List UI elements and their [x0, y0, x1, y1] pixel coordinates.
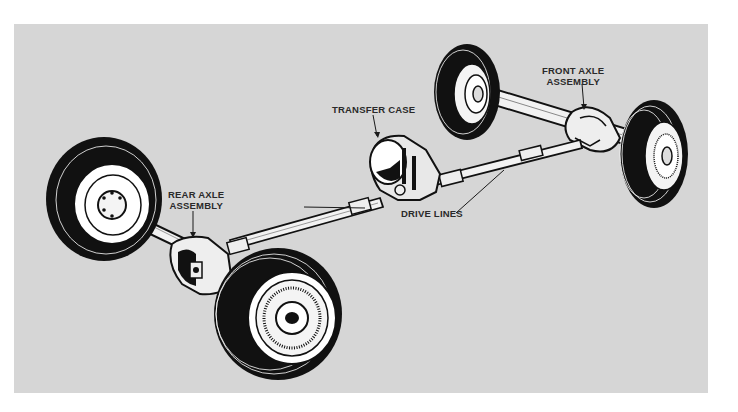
- rear-axle-label-line1: REAR AXLE: [168, 189, 224, 200]
- rear-axle-label-line2: ASSEMBLY: [168, 200, 224, 211]
- rear-axle-label: REAR AXLE ASSEMBLY: [168, 189, 224, 211]
- drive-lines-label: DRIVE LINES: [401, 208, 463, 219]
- rear-drive-line: [230, 198, 383, 249]
- drive-lines-label-line1: DRIVE LINES: [401, 208, 463, 219]
- drivetrain-illustration: [0, 0, 738, 412]
- rear-left-wheel: [46, 137, 162, 261]
- front-axle-label: FRONT AXLE ASSEMBLY: [542, 65, 604, 87]
- front-right-wheel: [620, 100, 688, 208]
- front-axle-label-line2: ASSEMBLY: [542, 76, 604, 87]
- front-left-wheel: [434, 44, 500, 140]
- transfer-case-label: TRANSFER CASE: [332, 104, 415, 115]
- front-axle-assembly: [478, 84, 630, 152]
- transfer-case-label-line1: TRANSFER CASE: [332, 104, 415, 115]
- rear-right-wheel: [214, 248, 342, 380]
- front-axle-label-line1: FRONT AXLE: [542, 65, 604, 76]
- front-drive-line: [430, 140, 582, 186]
- transfer-case: [370, 136, 440, 200]
